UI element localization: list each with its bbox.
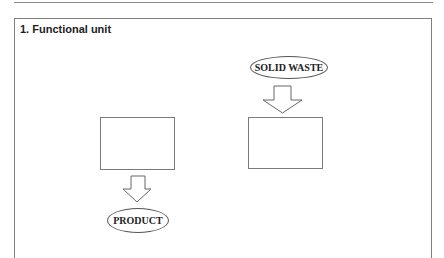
functional-unit-frame: 1. Functional unit: [14, 18, 432, 258]
solid-waste-label: SOLID WASTE: [255, 62, 323, 73]
product-ellipse: PRODUCT: [107, 208, 169, 233]
section-title: 1. Functional unit: [20, 23, 111, 35]
down-arrow-icon: [262, 86, 304, 115]
solid-waste-ellipse: SOLID WASTE: [250, 56, 328, 79]
left-process-box: [100, 117, 175, 170]
down-arrow-icon: [122, 176, 152, 204]
top-rule: [14, 2, 433, 3]
right-process-box: [248, 117, 323, 169]
product-label: PRODUCT: [113, 215, 162, 226]
